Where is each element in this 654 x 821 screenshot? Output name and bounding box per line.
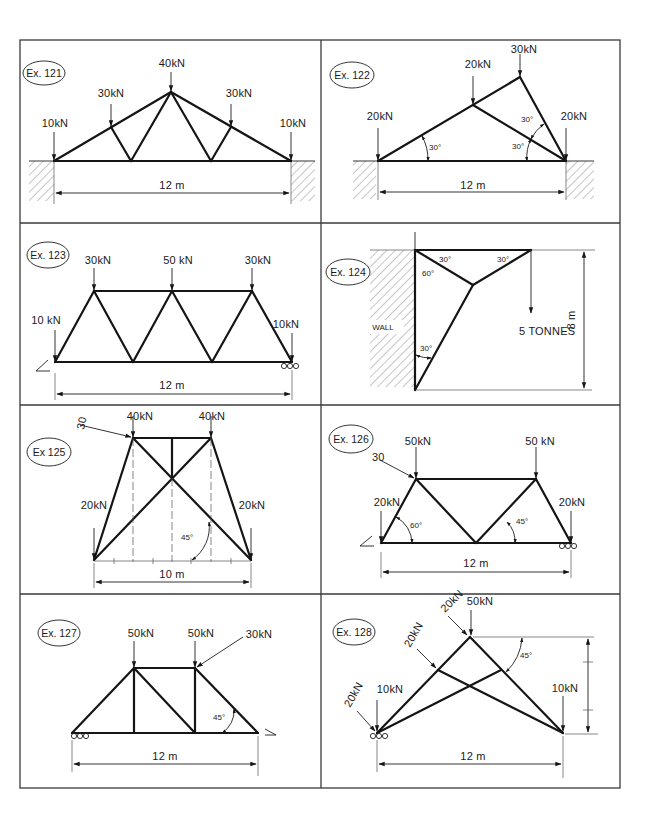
truss-members [377, 637, 563, 733]
load-label: 30kN [246, 628, 272, 640]
angle-arc [507, 522, 515, 543]
load-label: 10kN [42, 117, 68, 129]
panel-ex125: Ex 125 30 40kN 40kN 20kN 20kN 4 [27, 410, 265, 588]
load-label: 50kN [405, 435, 431, 447]
panel-ex123: Ex. 123 10 kN 30kN 50 kN 30kN 10kN 12 [27, 242, 299, 400]
angle-label: 60° [410, 521, 422, 530]
angle-label: 45° [516, 517, 528, 526]
load-arrow [380, 460, 414, 478]
truss-members [72, 668, 258, 733]
load-label: 30kN [98, 87, 124, 99]
example-tag: Ex. 127 [41, 627, 77, 639]
load-arrow [197, 637, 243, 667]
pin-support [36, 360, 50, 371]
load-label: 40kN [199, 410, 225, 422]
span-label: 12 m [460, 750, 485, 762]
load-label: 20kN [341, 680, 365, 709]
panel-ex124: Ex. 124 WALL 5 TONNES 30° 30° 60° 30° 8 … [326, 232, 595, 390]
angle-label: 30° [497, 255, 509, 264]
truss-members [55, 291, 292, 362]
panel-ex122: Ex. 122 20kN 20kN 30kN 20kN 30° 30° 30° … [330, 43, 594, 200]
truss-members [54, 92, 291, 161]
load-label: 20kN [438, 587, 465, 614]
outer-frame [20, 40, 620, 788]
roller-support [281, 363, 298, 368]
example-tag: Ex. 123 [30, 249, 66, 261]
truss-members [381, 479, 571, 543]
angle-label: 30° [420, 344, 432, 353]
angle-label: 30° [512, 142, 524, 151]
pin-support [360, 536, 374, 546]
load-label: 30 [372, 451, 385, 463]
load-label: 50kN [128, 627, 154, 639]
example-tag: Ex. 124 [330, 266, 366, 278]
truss-members [378, 77, 566, 161]
angle-arc [416, 355, 431, 358]
load-label: 20kN [561, 110, 587, 122]
roller-support [71, 733, 88, 738]
load-label: 30kN [226, 87, 252, 99]
height-label: 8 m [565, 311, 577, 330]
load-label: 40kN [127, 410, 153, 422]
load-label: 30kN [85, 254, 111, 266]
panel-ex128: Ex. 128 20kN 50kN 20kN 20kN 10kN 10kN 45… [333, 587, 598, 778]
angle-label: 45° [213, 713, 225, 722]
truss-members [94, 438, 251, 560]
angle-label: 30° [429, 143, 441, 152]
load-label: 10kN [273, 318, 299, 330]
load-label: 30kN [245, 254, 271, 266]
angle-arc [422, 136, 428, 161]
exercise-sheet: Ex. 121 10kN 30kN 40kN 30kN 10kN 12 m [0, 0, 654, 821]
wall-support-left [353, 161, 376, 199]
load-label: 30 [74, 416, 88, 431]
load-label: 30kN [511, 43, 537, 55]
load-label: 20kN [374, 496, 400, 508]
span-label: 12 m [460, 179, 485, 191]
wall-support-left [29, 161, 54, 201]
wall-support-right [566, 161, 594, 199]
panel-ex126: Ex. 126 30 50kN 50 kN 20kN 20kN 60° 45° … [329, 425, 585, 578]
example-tag: Ex. 122 [334, 69, 370, 81]
pin-support [265, 729, 276, 735]
example-tag: Ex. 121 [26, 67, 62, 79]
angle-arc [531, 124, 544, 139]
example-tag: Ex 125 [33, 446, 66, 458]
load-label: 50 kN [163, 254, 193, 266]
roller-support [370, 733, 387, 738]
panel-ex127: Ex. 127 50kN 50kN 30kN 45° 12 m [38, 620, 276, 776]
load-label: 10kN [552, 682, 578, 694]
load-label: 50 kN [525, 435, 555, 447]
roller-support [559, 543, 576, 548]
load-label: 20kN [465, 58, 491, 70]
span-label: 12 m [159, 379, 184, 391]
load-label: 40kN [159, 57, 185, 69]
load-label: 20kN [401, 620, 425, 649]
span-label: 12 m [152, 750, 177, 762]
load-label: 50kN [467, 595, 493, 607]
angle-label: 30° [439, 255, 451, 264]
load-arrow [80, 425, 131, 437]
span-label: 12 m [463, 557, 488, 569]
angle-label: 30° [521, 115, 533, 124]
wall-hatching [370, 250, 415, 387]
load-label: 20kN [559, 496, 585, 508]
load-label: 50kN [188, 627, 214, 639]
load-label: 10 kN [31, 314, 61, 326]
example-tag: Ex. 126 [333, 433, 369, 445]
load-arrow [357, 711, 375, 731]
example-tag: Ex. 128 [336, 626, 372, 638]
angle-label: 45° [181, 533, 193, 542]
load-label: 20kN [367, 110, 393, 122]
angle-label: 60° [422, 269, 434, 278]
angle-arc [192, 522, 209, 560]
load-label: 20kN [81, 499, 107, 511]
load-arrow [417, 649, 436, 668]
panel-grid [20, 40, 620, 788]
panel-ex121: Ex. 121 10kN 30kN 40kN 30kN 10kN 12 m [23, 57, 315, 204]
load-label: 20kN [239, 499, 265, 511]
load-label: 10kN [377, 683, 403, 695]
load-arrow [448, 616, 467, 635]
angle-arc [527, 139, 531, 161]
wall-support-right [291, 161, 315, 201]
wall-label: WALL [372, 323, 394, 332]
